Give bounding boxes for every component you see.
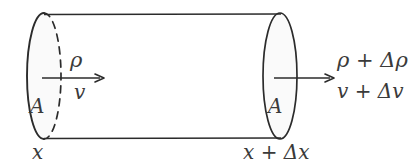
inflow-velocity-label: v (74, 82, 85, 102)
outflow-density-label: ρ + Δρ (337, 50, 408, 71)
right-area-label: A (268, 96, 282, 116)
cylinder-top-edge (44, 14, 281, 15)
right-end-face-ellipse (263, 13, 297, 139)
left-area-label: A (30, 96, 44, 116)
left-position-label: x (32, 142, 43, 162)
inflow-density-label: ρ (70, 50, 82, 71)
fluid-cylinder-figure: A A ρ v ρ + Δρ v + Δv x x + Δx (0, 0, 410, 166)
right-position-label: x + Δx (243, 142, 309, 162)
outflow-velocity-label: v + Δv (337, 81, 404, 101)
cylinder-bottom-edge (44, 138, 281, 139)
